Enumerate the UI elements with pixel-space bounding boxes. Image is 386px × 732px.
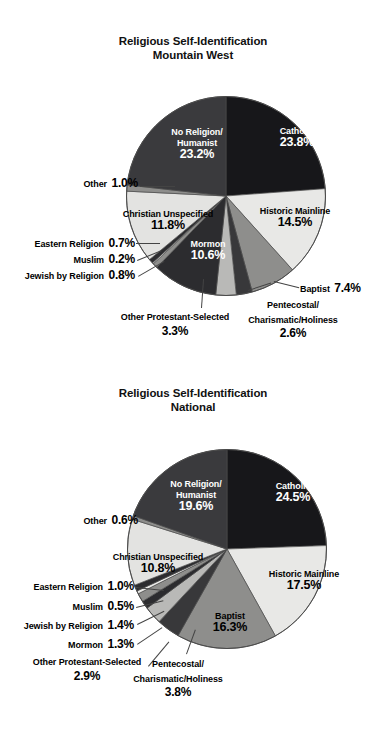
chart-subtitle-line-2: Mountain West xyxy=(0,48,386,62)
slice-label-other: Other 0.6% xyxy=(30,513,138,528)
pie-svg-2 xyxy=(127,449,327,649)
slice-label-mormon: Mormon 1.3% xyxy=(10,637,134,652)
slice-label-eastern-religion: Eastern Religion 1.0% xyxy=(0,579,134,594)
pie-chart-national xyxy=(127,449,327,649)
chart-subtitle-line-2: National xyxy=(0,400,386,414)
slice-label-pentecostal: Pentecostal/ Charismatic/Holiness 2.6% xyxy=(239,297,347,340)
slice-label-jewish: Jewish by Religion 0.8% xyxy=(0,268,135,283)
slice-label-baptist: Baptist 7.4% xyxy=(300,281,386,296)
pie-slice xyxy=(127,97,226,197)
chart-title-line-1: Religious Self-Identification xyxy=(0,386,386,400)
chart-mountain-west: Religious Self-Identification Mountain W… xyxy=(0,0,386,366)
slice-label-pentecostal: Pentecostal/ Charismatic/Holiness 3.8% xyxy=(120,656,236,699)
slice-label-other: Other 1.0% xyxy=(28,176,138,191)
slice-label-muslim: Muslim 0.2% xyxy=(0,252,135,267)
slice-label-other-protestant: Other Protestant-Selected 3.3% xyxy=(110,309,240,337)
slice-label-jewish: Jewish by Religion 1.4% xyxy=(0,618,134,633)
pie-slice xyxy=(226,97,325,197)
pie-slice xyxy=(227,450,326,550)
leader-line-other xyxy=(140,186,175,187)
chart-title-line-1: Religious Self-Identification xyxy=(0,34,386,48)
slice-label-eastern-religion: Eastern Religion 0.7% xyxy=(0,236,135,251)
slice-label-muslim: Muslim 0.5% xyxy=(0,599,134,614)
leader-line-eastern-religion xyxy=(136,243,160,244)
chart-national: Religious Self-Identification National C… xyxy=(0,366,386,732)
